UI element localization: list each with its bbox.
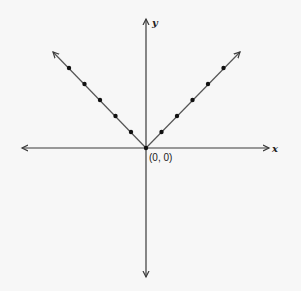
origin-label: (0, 0) <box>149 152 172 163</box>
absolute-value-graph: y x (0, 0) <box>0 0 301 291</box>
x-axis-label: x <box>271 143 279 154</box>
y-axis-label: y <box>151 17 159 28</box>
